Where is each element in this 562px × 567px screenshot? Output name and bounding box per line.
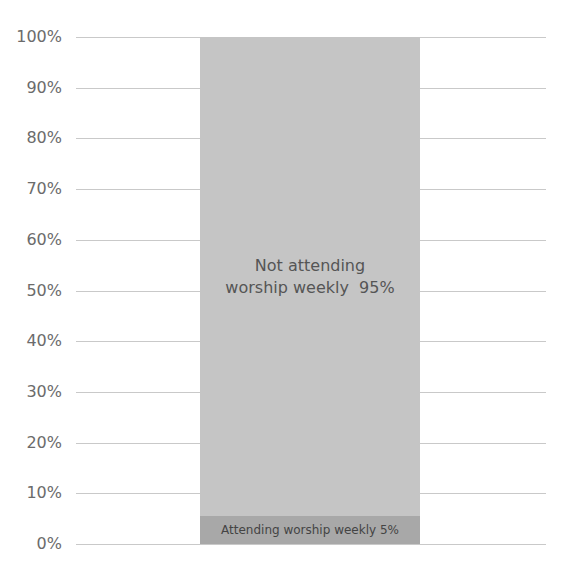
y-tick-label: 20%: [0, 433, 62, 453]
y-tick-label: 10%: [0, 483, 62, 503]
y-tick-label: 50%: [0, 281, 62, 301]
y-tick-label: 70%: [0, 179, 62, 199]
segment-label-line2: worship weekly 95%: [225, 277, 394, 299]
segment-label: Attending worship weekly 5%: [221, 523, 399, 537]
y-tick-label: 60%: [0, 230, 62, 250]
y-tick-label: 0%: [0, 534, 62, 554]
y-tick-label: 80%: [0, 128, 62, 148]
gridline: [76, 544, 546, 545]
stacked-bar: Not attending worship weekly 95% Attendi…: [200, 37, 420, 544]
y-tick-label: 40%: [0, 331, 62, 351]
y-tick-label: 100%: [0, 27, 62, 47]
bar-segment-attending: Attending worship weekly 5%: [200, 516, 420, 544]
y-tick-label: 30%: [0, 382, 62, 402]
y-tick-label: 90%: [0, 78, 62, 98]
bar-segment-not-attending: Not attending worship weekly 95%: [200, 37, 420, 516]
segment-label-line1: Not attending: [225, 255, 394, 277]
